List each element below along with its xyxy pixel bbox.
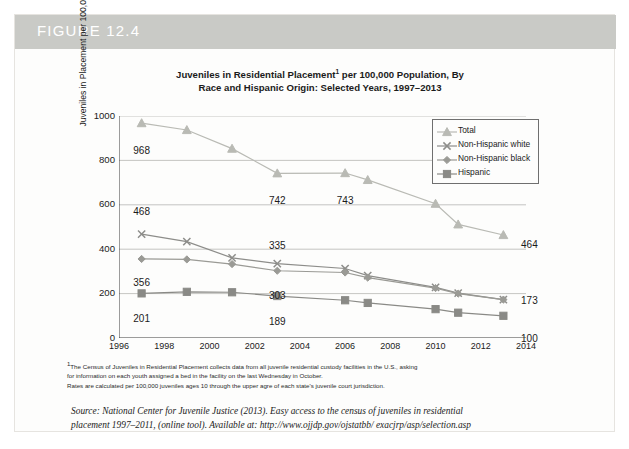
- marker-diamond: [443, 156, 450, 163]
- marker-square: [183, 288, 190, 295]
- x-tick-label: 2002: [245, 341, 265, 351]
- series-line: [142, 234, 504, 299]
- figure-label: FIGURE 12.4: [37, 22, 140, 39]
- x-axis-ticks: 1996199820002002200420062008201020122014: [119, 341, 526, 355]
- chart-title: Juveniles in Residential Placement1 per …: [85, 65, 555, 94]
- legend-label: Total: [458, 125, 476, 135]
- footnote-text-1: The Census of Juveniles in Residential P…: [70, 363, 417, 370]
- x-tick-label: 2014: [516, 341, 536, 351]
- y-tick-label: 400: [99, 243, 115, 254]
- legend-label: Hispanic: [458, 167, 490, 177]
- marker-triangle: [228, 144, 237, 152]
- footnote-line-2: for information on each youth assigned a…: [67, 371, 567, 380]
- series-hispanic: [138, 288, 507, 319]
- x-tick-label: 2008: [380, 341, 400, 351]
- legend-swatch: [436, 126, 458, 138]
- legend-item-hispanic[interactable]: Hispanic: [436, 165, 534, 179]
- marker-square: [274, 292, 281, 299]
- figure-root: FIGURE 12.4 Juveniles in Residential Pla…: [0, 0, 629, 449]
- series-non-hispanic-black: [138, 255, 507, 303]
- y-tick-label: 800: [99, 154, 115, 165]
- figure-card: FIGURE 12.4 Juveniles in Residential Pla…: [14, 14, 615, 432]
- legend-label: Non-Hispanic black: [458, 153, 530, 163]
- marker-square: [364, 299, 371, 306]
- marker-triangle: [137, 119, 146, 127]
- marker-square: [443, 170, 450, 177]
- marker-square: [342, 297, 349, 304]
- legend-marker-diamond-icon: [436, 152, 458, 164]
- marker-square: [500, 312, 507, 319]
- x-tick-label: 1998: [154, 341, 174, 351]
- y-tick-label: 200: [99, 287, 115, 298]
- marker-diamond: [228, 260, 235, 267]
- y-tick-label: 1000: [94, 110, 115, 121]
- y-axis-ticks: 02004006008001000: [81, 116, 115, 338]
- source-citation: Source: National Center for Juvenile Jus…: [71, 405, 566, 432]
- marker-triangle: [431, 199, 440, 207]
- x-tick-label: 2010: [426, 341, 446, 351]
- x-tick-label: 2012: [471, 341, 491, 351]
- legend-label: Non-Hispanic white: [458, 139, 530, 149]
- marker-diamond: [138, 255, 145, 262]
- legend-swatch: [436, 140, 458, 152]
- legend-item-non-hispanic-black[interactable]: Non-Hispanic black: [436, 151, 534, 165]
- x-tick-label: 2000: [199, 341, 219, 351]
- legend-item-non-hispanic-white[interactable]: Non-Hispanic white: [436, 137, 534, 151]
- x-tick-label: 1996: [109, 341, 129, 351]
- marker-diamond: [183, 256, 190, 263]
- chart-title-line2: Race and Hispanic Origin: Selected Years…: [199, 82, 442, 93]
- marker-square: [138, 290, 145, 297]
- legend-swatch: [436, 168, 458, 180]
- legend-marker-square-icon: [436, 166, 458, 178]
- legend-marker-triangle-icon: [436, 124, 458, 136]
- chart-title-line1-a: Juveniles in Residential Placement: [176, 69, 335, 80]
- footnote-line-1: 1The Census of Juveniles in Residential …: [67, 360, 567, 371]
- footnote: 1The Census of Juveniles in Residential …: [67, 360, 567, 390]
- chart-title-line1-b: per 100,000 Population, By: [339, 69, 464, 80]
- legend-swatch: [436, 154, 458, 166]
- marker-square: [432, 306, 439, 313]
- chart-legend: TotalNon-Hispanic whiteNon-Hispanic blac…: [432, 119, 539, 184]
- footnote-line-3: Rates are calculated per 100,000 juvenil…: [67, 381, 567, 390]
- source-line-2: placement 1997–2011, (online tool). Avai…: [71, 419, 566, 433]
- x-tick-label: 2006: [335, 341, 355, 351]
- source-line-1: Source: National Center for Juvenile Jus…: [71, 405, 566, 419]
- legend-marker-cross-icon: [436, 138, 458, 150]
- marker-square: [455, 309, 462, 316]
- x-tick-label: 2004: [290, 341, 310, 351]
- series-line: [142, 292, 504, 316]
- marker-diamond: [274, 267, 281, 274]
- y-tick-label: 600: [99, 198, 115, 209]
- legend-item-total[interactable]: Total: [436, 123, 534, 137]
- marker-square: [228, 289, 235, 296]
